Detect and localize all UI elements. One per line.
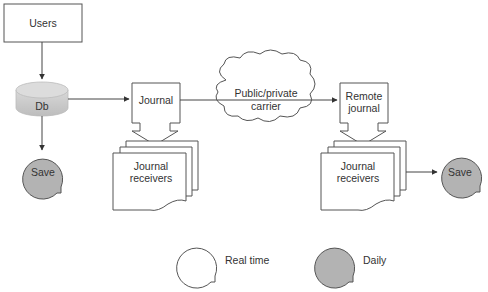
save-local-node: Save	[23, 159, 63, 199]
legend-daily: Daily	[315, 248, 387, 288]
remote-journal-line1: Remote	[346, 90, 383, 102]
remote-journal-line2: journal	[347, 102, 380, 114]
remote-journal-node: Remote journal	[340, 83, 388, 145]
journal-diagram: Users Db Save Journal Journal receivers …	[0, 0, 488, 292]
journal-receivers-local-node: Journal receivers	[113, 141, 198, 210]
legend-daily-label: Daily	[363, 254, 387, 266]
legend-daily-swatch	[315, 248, 355, 288]
journal-receivers-local-line1: Journal	[134, 160, 168, 172]
journal-receivers-remote-line1: Journal	[341, 160, 375, 172]
save-remote-label: Save	[448, 166, 472, 178]
journal-receivers-local-line2: receivers	[130, 172, 173, 184]
carrier-line2: carrier	[251, 100, 281, 112]
journal-node: Journal	[132, 83, 180, 145]
carrier-cloud-node: Public/private carrier	[216, 50, 315, 122]
save-remote-node: Save	[442, 158, 482, 198]
journal-label: Journal	[139, 94, 173, 106]
legend-real-time-label: Real time	[225, 254, 270, 266]
db-node: Db	[16, 82, 68, 116]
legend-real-time: Real time	[177, 248, 270, 288]
users-label: Users	[29, 17, 56, 29]
legend-real-time-swatch	[177, 248, 217, 288]
users-node: Users	[4, 4, 82, 42]
save-local-label: Save	[31, 166, 55, 178]
journal-receivers-remote-line2: receivers	[337, 172, 380, 184]
legend: Real time Daily	[177, 248, 387, 288]
db-label: Db	[35, 100, 49, 112]
carrier-line1: Public/private	[234, 87, 297, 99]
journal-receivers-remote-node: Journal receivers	[321, 141, 406, 210]
